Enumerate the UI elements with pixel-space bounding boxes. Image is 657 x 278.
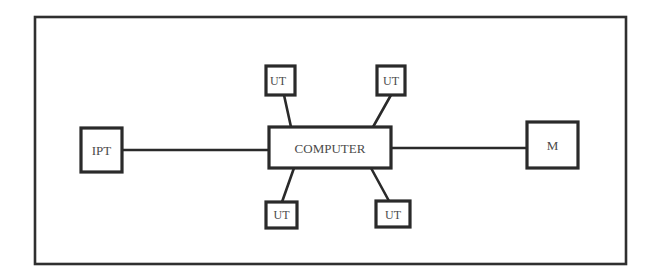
ut-top-right-label: UT [383, 74, 400, 88]
edge-ut-top-right-computer [373, 95, 391, 127]
m-label: M [547, 138, 559, 153]
ipt-label: IPT [92, 143, 112, 158]
node-ut-top-right: UT [377, 66, 405, 95]
node-ipt: IPT [81, 128, 122, 172]
node-ut-bottom-left: UT [266, 202, 297, 228]
system-diagram: IPT COMPUTER M UT UT UT UT [0, 0, 657, 278]
node-ut-top-left: UT [266, 66, 295, 95]
node-computer: COMPUTER [269, 127, 391, 168]
edge-ut-bottom-left-computer [282, 168, 294, 202]
ut-bottom-left-label: UT [274, 208, 291, 222]
edge-ut-bottom-right-computer [371, 168, 389, 201]
computer-label: COMPUTER [295, 141, 366, 156]
node-m: M [527, 122, 578, 168]
ut-top-left-label: UT [270, 74, 287, 88]
ut-bottom-right-label: UT [385, 208, 402, 222]
node-ut-bottom-right: UT [376, 201, 410, 227]
edge-ut-top-left-computer [284, 95, 291, 127]
